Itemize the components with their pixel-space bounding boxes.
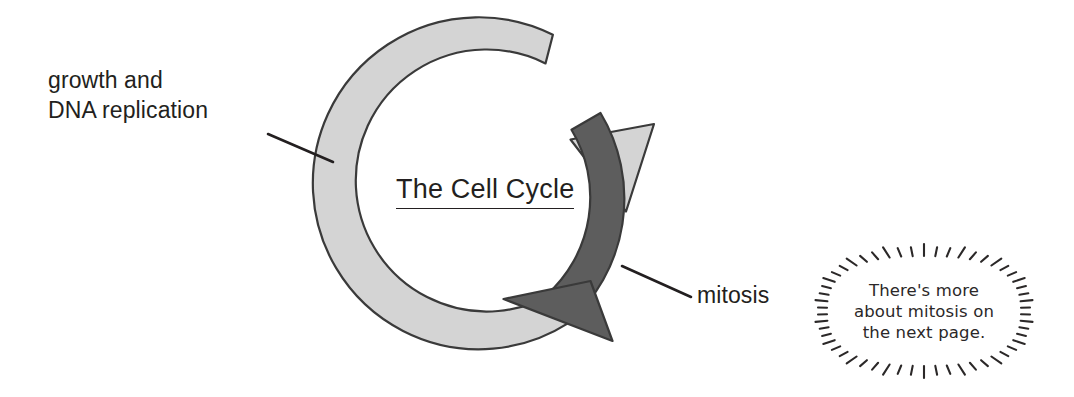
burst-tick: [1017, 334, 1026, 336]
mitosis-arrow: [504, 113, 625, 341]
burst-tick: [883, 247, 890, 257]
burst-tick: [820, 327, 829, 329]
burst-tick: [1019, 293, 1028, 295]
callout-line-3: the next page.: [863, 323, 986, 342]
mitosis-leader-line: [622, 266, 691, 297]
burst-tick: [970, 363, 976, 370]
burst-tick: [822, 334, 831, 336]
burst-tick: [816, 321, 828, 322]
burst-tick: [1019, 327, 1028, 329]
burst-tick: [816, 300, 828, 301]
burst-tick: [1013, 340, 1024, 344]
burst-tick: [947, 248, 951, 256]
burst-tick: [898, 248, 902, 256]
burst-tick: [860, 256, 867, 262]
burst-tick: [872, 252, 878, 259]
diagram-title: The Cell Cycle: [396, 174, 574, 209]
callout-line-1: There's more: [869, 281, 979, 300]
burst-tick: [823, 278, 834, 282]
burst-tick: [911, 247, 913, 256]
cell-cycle-diagram: growth and DNA replication mitosis The C…: [0, 0, 1074, 397]
burst-tick: [1017, 286, 1026, 288]
burst-tick: [883, 365, 890, 375]
burst-tick: [823, 340, 834, 344]
burst-tick: [947, 366, 951, 374]
burst-tick: [820, 293, 829, 295]
callout-note: There's more about mitosis on the next p…: [836, 264, 1012, 358]
burst-tick: [958, 365, 965, 375]
burst-tick: [911, 366, 913, 375]
burst-tick: [1021, 321, 1033, 322]
burst-tick: [958, 247, 965, 257]
burst-tick: [1021, 300, 1033, 301]
burst-tick: [822, 286, 831, 288]
burst-tick: [935, 366, 937, 375]
burst-tick: [981, 360, 988, 366]
burst-tick: [970, 252, 976, 259]
burst-tick: [935, 247, 937, 256]
burst-tick: [860, 360, 867, 366]
burst-tick: [1013, 278, 1024, 282]
callout-line-2: about mitosis on: [854, 302, 994, 321]
label-mitosis: mitosis: [697, 281, 769, 311]
burst-tick: [872, 363, 878, 370]
burst-tick: [981, 256, 988, 262]
burst-tick: [898, 366, 902, 374]
label-growth-and-dna-replication: growth and DNA replication: [48, 66, 208, 126]
diagram-title-text: The Cell Cycle: [396, 174, 574, 209]
